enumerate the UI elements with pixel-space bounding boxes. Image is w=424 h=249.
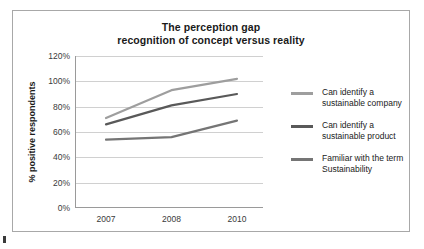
chart-title: The perception gap recognition of concep… bbox=[13, 21, 409, 47]
y-axis-tick-label: 80% bbox=[53, 102, 70, 112]
chart-title-line-2: recognition of concept versus reality bbox=[13, 34, 409, 47]
x-axis-tick-label: 2010 bbox=[228, 214, 247, 224]
legend-swatch-icon bbox=[291, 92, 313, 95]
chart-title-line-1: The perception gap bbox=[13, 21, 409, 34]
legend-item[interactable]: Can identify asustainable product bbox=[291, 120, 407, 142]
y-axis-label: % positive respondents bbox=[27, 56, 41, 208]
legend-label: Can identify asustainable company bbox=[322, 87, 407, 109]
legend-swatch-icon bbox=[291, 125, 313, 128]
y-axis-tick-label: 0% bbox=[58, 203, 70, 213]
chart-legend: Can identify asustainable companyCan ide… bbox=[291, 87, 407, 186]
y-axis-tick-label: 60% bbox=[53, 127, 70, 137]
series-line bbox=[106, 121, 237, 140]
y-axis-tick-label: 40% bbox=[53, 152, 70, 162]
legend-swatch-icon bbox=[291, 158, 313, 161]
y-axis-tick-label: 20% bbox=[53, 178, 70, 188]
legend-label-line-1: Can identify a bbox=[322, 120, 407, 131]
legend-label-line-2: sustainable company bbox=[322, 98, 407, 109]
legend-item[interactable]: Familiar with the termSustainability bbox=[291, 153, 407, 175]
legend-label-line-1: Can identify a bbox=[322, 87, 407, 98]
legend-label: Familiar with the termSustainability bbox=[322, 153, 407, 175]
y-axis-tick-label: 120% bbox=[48, 51, 70, 61]
page-artifact-mark bbox=[3, 236, 6, 243]
chart-card: The perception gap recognition of concep… bbox=[12, 10, 410, 232]
plot-area: % positive respondents 0%20%40%60%80%100… bbox=[75, 56, 263, 208]
legend-label-line-1: Familiar with the term bbox=[322, 153, 407, 164]
legend-item[interactable]: Can identify asustainable company bbox=[291, 87, 407, 109]
series-lines bbox=[75, 56, 263, 208]
y-axis-tick-label: 100% bbox=[48, 76, 70, 86]
legend-label-line-2: Sustainability bbox=[322, 164, 407, 175]
x-axis-tick-label: 2008 bbox=[162, 214, 181, 224]
legend-label: Can identify asustainable product bbox=[322, 120, 407, 142]
x-axis-tick-label: 2007 bbox=[97, 214, 116, 224]
legend-label-line-2: sustainable product bbox=[322, 131, 407, 142]
